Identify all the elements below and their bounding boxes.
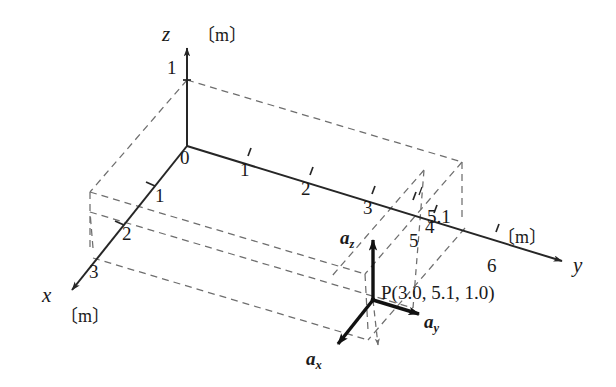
dash-top-back-edge <box>187 80 462 162</box>
y-tick-label-2: 2 <box>301 179 311 198</box>
vector-ax-sub: x <box>316 358 322 372</box>
y-tick-label-3: 3 <box>363 198 373 217</box>
origin-label: 0 <box>180 148 190 167</box>
z-axis-label: z <box>162 24 170 45</box>
z-axis-unit: 〔m〕 <box>197 26 247 44</box>
y-tick-label-5: 5 <box>409 231 419 250</box>
y-axis-ticks <box>248 148 499 232</box>
dash-top-left-edge <box>90 80 187 192</box>
x-tick-label-3: 3 <box>89 262 99 281</box>
x-tick-label-2: 2 <box>122 224 132 243</box>
point-P-marker <box>371 298 376 303</box>
vector-ay-label: ay <box>424 312 439 334</box>
vector-ax-base: a <box>306 348 316 369</box>
dash-bottom-front-edge <box>93 258 368 340</box>
vector-az-base: a <box>340 227 350 248</box>
x-axis-label: x <box>42 285 51 306</box>
x-tick-label-1: 1 <box>155 186 165 205</box>
y-axis-unit: 〔m〕 <box>497 228 547 246</box>
dash-line-x3-to-P <box>90 212 413 308</box>
y-axis-tick-5-1 <box>413 192 416 200</box>
vector-az-sub: z <box>350 237 355 251</box>
vector-ay-base: a <box>424 311 434 332</box>
vector-az-label: az <box>340 228 354 250</box>
y-tick-label-6: 6 <box>487 256 497 275</box>
figure-canvas: z 〔m〕 1 0 1 2 3 4 5 6 5.1 〔m〕 y 1 2 3 x … <box>0 0 616 387</box>
z-tick-label-1: 1 <box>167 58 177 77</box>
dash-drop-from-P <box>373 300 378 345</box>
dash-pillar-front <box>365 274 368 330</box>
vector-ay-sub: y <box>434 321 440 335</box>
y-value-label-5-1: 5.1 <box>427 207 451 226</box>
dash-line-y51-upper <box>332 170 424 276</box>
point-P-label: P(3.0, 5.1, 1.0) <box>381 283 494 302</box>
x-axis-ticks <box>115 182 155 225</box>
y-tick-label-1: 1 <box>240 160 250 179</box>
x-axis-unit: 〔m〕 <box>60 307 110 325</box>
vector-ax-label: ax <box>306 349 322 371</box>
y-axis-label: y <box>573 255 582 276</box>
